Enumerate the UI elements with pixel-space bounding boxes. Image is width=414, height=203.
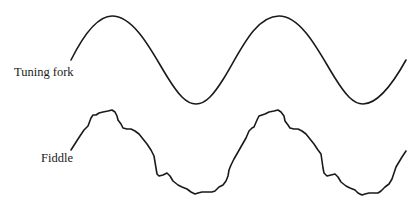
tuning-fork-label: Tuning fork [14, 66, 74, 79]
tuning-fork-waveform [71, 16, 406, 104]
fiddle-waveform [71, 110, 406, 195]
waveforms-canvas [0, 0, 414, 203]
fiddle-label: Fiddle [41, 152, 73, 165]
waveform-comparison-figure: Tuning fork Fiddle [0, 0, 414, 203]
